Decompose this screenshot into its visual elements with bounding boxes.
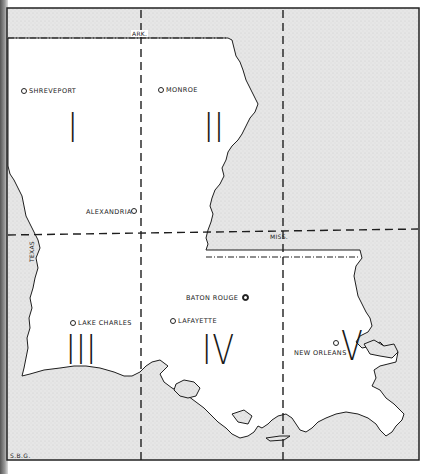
city-marker-alexandria [131,208,137,214]
city-marker-lake-charles [70,320,76,326]
map-credit: S.B.G. [10,452,31,459]
louisiana-map: ARK. MISS. TEXAS I II III IV V SHREVEPOR… [0,0,434,474]
label-arkansas: ARK. [131,30,148,37]
city-label-baton-rouge: BATON ROUGE [186,294,238,302]
city-label-monroe: MONROE [166,86,198,94]
city-label-new-orleans: NEW ORLEANS [294,349,347,357]
region-numeral-3: III [66,330,97,370]
city-label-lafayette: LAFAYETTE [178,317,217,325]
city-label-alexandria: ALEXANDRIA [86,208,132,216]
city-marker-shreveport [21,88,27,94]
city-label-lake-charles: LAKE CHARLES [78,319,132,327]
city-marker-monroe [158,87,164,93]
label-texas: TEXAS [28,241,35,262]
region-numeral-4: IV [202,330,235,370]
city-label-shreveport: SHREVEPORT [29,87,76,95]
label-mississippi: MISS. [270,233,288,240]
map-drawing [0,0,434,474]
city-marker-lafayette [170,318,176,324]
capital-marker-baton-rouge [242,294,249,301]
region-numeral-1: I [68,108,78,148]
region-numeral-2: II [204,108,224,148]
region-numeral-5: V [341,326,364,366]
city-marker-new-orleans [333,340,339,346]
